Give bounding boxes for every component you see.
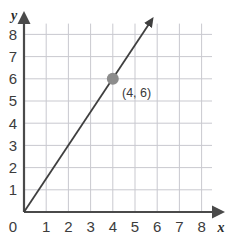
plot-area: 8 7 6 5 4 3 2 1 0 1 2 3 4 5 6 7 8 y x (4… <box>0 0 231 244</box>
y-tick-label-5: 5 <box>9 92 17 109</box>
y-tick-label-7: 7 <box>9 48 17 65</box>
y-tick-label-8: 8 <box>9 26 17 43</box>
point-annotation-label: (4, 6) <box>122 86 151 100</box>
coordinate-graph: 8 7 6 5 4 3 2 1 0 1 2 3 4 5 6 7 8 y x (4… <box>0 0 231 244</box>
y-tick-label-6: 6 <box>9 70 17 87</box>
x-tick-label-5: 5 <box>131 218 139 235</box>
y-tick-label-3: 3 <box>9 137 17 154</box>
x-tick-label-1: 1 <box>42 218 50 235</box>
x-tick-label-7: 7 <box>175 218 183 235</box>
y-tick-label-4: 4 <box>9 115 17 132</box>
x-tick-label-3: 3 <box>86 218 94 235</box>
x-axis-label: x <box>217 220 225 235</box>
data-point-4-6 <box>107 73 119 85</box>
x-tick-label-6: 6 <box>153 218 161 235</box>
x-tick-label-4: 4 <box>109 218 117 235</box>
origin-tick-label-0: 0 <box>9 218 17 235</box>
y-tick-label-2: 2 <box>9 159 17 176</box>
chart-background <box>0 0 231 244</box>
y-axis-label: y <box>9 8 18 23</box>
y-tick-label-1: 1 <box>9 181 17 198</box>
x-tick-label-8: 8 <box>197 218 205 235</box>
x-tick-label-2: 2 <box>64 218 72 235</box>
